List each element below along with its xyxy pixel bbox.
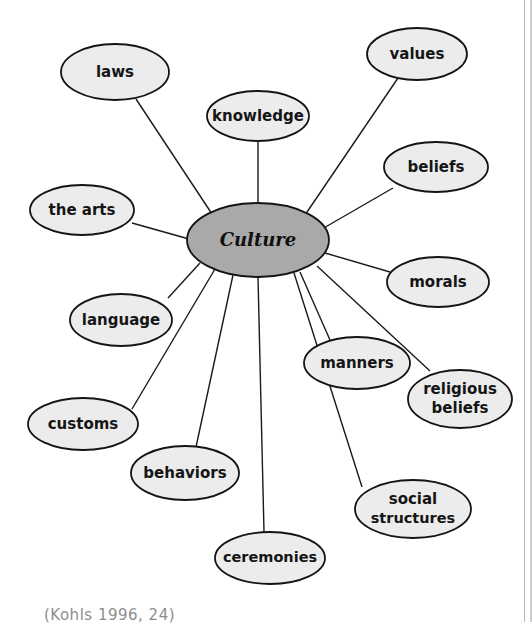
- node-label-manners: manners: [320, 354, 394, 372]
- edge-culture-to-values: [305, 78, 398, 215]
- node-label-language: language: [82, 311, 160, 329]
- node-label-customs: customs: [48, 415, 119, 433]
- edge-culture-to-morals: [325, 253, 390, 272]
- center-node-layer: Culture: [187, 203, 329, 277]
- node-ceremonies[interactable]: ceremonies: [215, 532, 325, 584]
- node-label-morals: morals: [409, 273, 467, 291]
- node-morals[interactable]: morals: [387, 257, 489, 307]
- node-label-ceremonies: ceremonies: [223, 549, 317, 565]
- node-label-social-structures: social: [389, 490, 438, 508]
- node-culture-center[interactable]: Culture: [187, 203, 329, 277]
- node-the-arts[interactable]: the arts: [30, 185, 134, 235]
- edge-culture-to-the-arts: [132, 223, 189, 239]
- edge-culture-to-laws: [136, 99, 212, 214]
- node-label-values: values: [390, 45, 445, 63]
- node-label-religious-beliefs: beliefs: [432, 399, 489, 417]
- node-label-religious-beliefs: religious: [423, 380, 497, 398]
- node-label-behaviors: behaviors: [143, 464, 226, 482]
- node-beliefs[interactable]: beliefs: [384, 142, 488, 192]
- node-religious-beliefs[interactable]: religiousbeliefs: [408, 370, 512, 428]
- node-label-knowledge: knowledge: [212, 107, 304, 125]
- nodes-layer: lawsknowledgevaluesbeliefsmoralsreligiou…: [28, 28, 512, 584]
- node-label-laws: laws: [96, 63, 134, 81]
- node-behaviors[interactable]: behaviors: [131, 446, 239, 500]
- node-customs[interactable]: customs: [28, 398, 138, 450]
- page-edge-rule: [524, 0, 525, 622]
- edge-culture-to-behaviors: [196, 275, 233, 447]
- node-label-beliefs: beliefs: [408, 158, 465, 176]
- node-laws[interactable]: laws: [61, 44, 169, 100]
- node-values[interactable]: values: [367, 28, 467, 80]
- edge-culture-to-beliefs: [322, 188, 393, 229]
- node-label-the-arts: the arts: [49, 201, 116, 219]
- node-manners[interactable]: manners: [304, 337, 410, 389]
- edge-culture-to-language: [168, 263, 200, 298]
- node-knowledge[interactable]: knowledge: [207, 91, 309, 141]
- edge-culture-to-ceremonies: [258, 277, 264, 532]
- node-label-social-structures: structures: [371, 510, 456, 526]
- node-label-culture: Culture: [220, 229, 297, 250]
- node-social-structures[interactable]: socialstructures: [355, 480, 471, 538]
- node-language[interactable]: language: [70, 294, 172, 346]
- figure-caption: (Kohls 1996, 24): [44, 606, 175, 624]
